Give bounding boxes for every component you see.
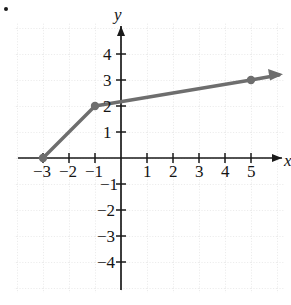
x-tick-label--3: −3 bbox=[33, 163, 51, 180]
data-point-marker bbox=[91, 102, 99, 110]
x-tick-label-2: 2 bbox=[169, 163, 178, 180]
x-tick-label-4: 4 bbox=[221, 163, 230, 180]
y-tick-label--4: −4 bbox=[97, 254, 115, 271]
x-tick-label--2: −2 bbox=[59, 163, 77, 180]
x-tick-label-5: 5 bbox=[247, 163, 256, 180]
x-axis-label: x bbox=[284, 152, 291, 169]
x-tick-label-1: 1 bbox=[143, 163, 152, 180]
data-point-marker bbox=[39, 154, 47, 162]
y-tick-label--3: −3 bbox=[97, 228, 115, 245]
coordinate-plane bbox=[0, 0, 291, 305]
data-point-marker bbox=[247, 76, 255, 84]
y-tick-label-2: 2 bbox=[103, 98, 112, 115]
y-tick-label-4: 4 bbox=[103, 46, 112, 63]
x-tick-label-3: 3 bbox=[195, 163, 204, 180]
y-tick-label-3: 3 bbox=[103, 72, 112, 89]
y-tick-label--1: −1 bbox=[100, 176, 118, 193]
y-tick-label-1: 1 bbox=[103, 124, 112, 141]
graph-figure: y x −3 −2 −1 1 2 3 4 5 4 3 2 1 −1 −2 −3 … bbox=[0, 0, 291, 305]
y-axis-label: y bbox=[114, 6, 122, 23]
y-tick-label--2: −2 bbox=[97, 202, 115, 219]
